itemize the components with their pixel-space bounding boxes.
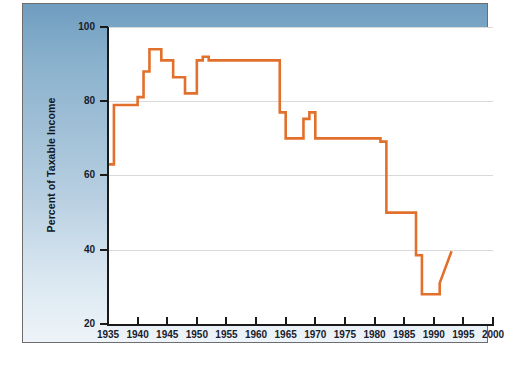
x-tick-1945 [166, 317, 168, 326]
x-tick-1940 [137, 317, 139, 326]
y-tick-40 [100, 249, 108, 251]
x-tick-1955 [225, 317, 227, 326]
x-tick-1995 [462, 317, 464, 326]
y-axis-title: Percent of Taxable Income [45, 75, 57, 255]
x-tick-1965 [285, 317, 287, 326]
x-tick-1950 [196, 317, 198, 326]
y-tick-label-100: 100 [55, 21, 95, 32]
data-series-line [108, 27, 493, 325]
chart-frame: 100 80 60 40 20 193519401945195019551960… [22, 3, 488, 343]
x-axis-line [107, 324, 494, 326]
x-tick-1970 [314, 317, 316, 326]
x-tick-1975 [344, 317, 346, 326]
y-tick-label-20: 20 [55, 318, 95, 329]
y-tick-label-40: 40 [55, 244, 95, 255]
y-tick-80 [100, 100, 108, 102]
x-tick-1960 [255, 317, 257, 326]
y-axis-line [107, 27, 109, 325]
x-tick-1985 [403, 317, 405, 326]
y-tick-60 [100, 174, 108, 176]
figure-container: 100 80 60 40 20 193519401945195019551960… [0, 0, 510, 386]
x-tick-1990 [433, 317, 435, 326]
x-tick-1935 [107, 317, 109, 326]
x-tick-label-2000: 2000 [473, 329, 510, 340]
y-tick-label-60: 60 [55, 169, 95, 180]
y-tick-label-80: 80 [55, 95, 95, 106]
y-tick-100 [100, 26, 108, 28]
x-tick-1980 [374, 317, 376, 326]
x-tick-2000 [492, 317, 494, 326]
